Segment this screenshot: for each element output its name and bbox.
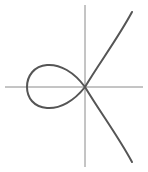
curve-diagram — [0, 0, 148, 172]
curve-plot — [0, 0, 148, 172]
